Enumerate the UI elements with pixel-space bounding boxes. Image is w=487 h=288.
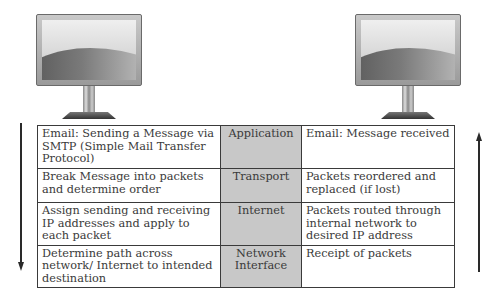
layer-label: Application: [221, 126, 302, 169]
monitor-base: [381, 112, 435, 119]
sender-step: Email: Sending a Message via SMTP (Simpl…: [38, 126, 221, 169]
table-row-internet: Assign sending and receiving IP addresse…: [38, 203, 455, 246]
tcp-ip-layers-table: Email: Sending a Message via SMTP (Simpl…: [37, 125, 455, 288]
sender-step: Break Message into packets and determine…: [38, 169, 221, 203]
monitor-screen: [361, 20, 455, 80]
receiver-step: Packets reordered and replaced (if lost): [302, 169, 455, 203]
receiver-step: Receipt of packets: [302, 245, 455, 288]
layer-label: Network Interface: [221, 245, 302, 288]
table-row-transport: Break Message into packets and determine…: [38, 169, 455, 203]
layer-label: Transport: [221, 169, 302, 203]
monitor-bezel: [36, 14, 142, 86]
receiver-step: Packets routed through internal network …: [302, 203, 455, 246]
table-row-network-interface: Determine path across network/ Internet …: [38, 245, 455, 288]
layer-label: Internet: [221, 203, 302, 246]
monitor-bezel: [355, 14, 461, 86]
monitor-base: [62, 112, 116, 119]
receiver-step: Email: Message received: [302, 126, 455, 169]
monitor-stand: [83, 86, 95, 114]
sender-step: Assign sending and receiving IP addresse…: [38, 203, 221, 246]
monitor-screen: [42, 20, 136, 80]
sender-step: Determine path across network/ Internet …: [38, 245, 221, 288]
table-row-application: Email: Sending a Message via SMTP (Simpl…: [38, 126, 455, 169]
monitor-stand: [402, 86, 414, 114]
